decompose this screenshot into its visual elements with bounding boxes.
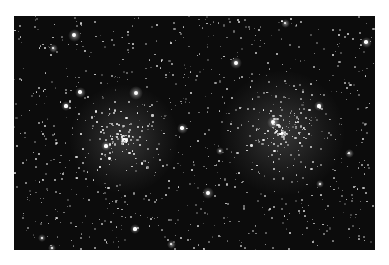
faint-star — [156, 24, 158, 26]
faint-star — [359, 32, 361, 34]
faint-star — [113, 31, 114, 32]
faint-star — [356, 130, 357, 131]
faint-star — [171, 109, 172, 110]
faint-star — [16, 186, 18, 188]
cluster-star — [146, 166, 148, 168]
faint-star — [90, 52, 92, 54]
faint-star — [318, 29, 319, 30]
faint-star — [203, 69, 204, 70]
faint-star — [53, 159, 55, 161]
faint-star — [206, 23, 208, 25]
faint-star — [153, 129, 154, 130]
cluster-star — [299, 142, 301, 144]
faint-star — [30, 194, 31, 195]
faint-star — [76, 194, 77, 195]
faint-star — [290, 68, 291, 69]
faint-star — [271, 35, 272, 36]
cluster-star — [156, 148, 158, 150]
faint-star — [149, 225, 151, 227]
faint-star — [135, 213, 136, 214]
faint-star — [168, 219, 170, 221]
faint-star — [243, 207, 245, 209]
faint-star — [107, 208, 108, 209]
faint-star — [286, 228, 288, 230]
faint-star — [69, 160, 70, 161]
faint-star — [372, 28, 374, 30]
faint-star — [51, 81, 53, 83]
faint-star — [295, 200, 297, 202]
cluster-star — [139, 136, 141, 138]
faint-star — [207, 44, 208, 45]
faint-star — [212, 236, 214, 238]
faint-star — [360, 209, 361, 210]
cluster-star — [276, 86, 277, 87]
faint-star — [259, 46, 261, 48]
faint-star — [365, 192, 367, 194]
cluster-star — [139, 144, 140, 145]
faint-star — [170, 42, 172, 44]
faint-star — [110, 221, 112, 223]
cluster-star — [303, 108, 305, 110]
faint-star — [366, 68, 368, 70]
cluster-star — [296, 116, 298, 118]
faint-star — [349, 237, 350, 238]
faint-star — [295, 59, 296, 60]
faint-star — [358, 71, 360, 73]
faint-star — [187, 239, 188, 240]
faint-star — [338, 34, 340, 36]
faint-star — [220, 236, 221, 237]
faint-star — [243, 205, 245, 207]
faint-star — [145, 78, 146, 79]
faint-star — [203, 201, 205, 203]
faint-star — [154, 54, 155, 55]
faint-star — [121, 229, 122, 230]
faint-star — [105, 187, 106, 188]
faint-star — [133, 192, 135, 194]
faint-star — [316, 119, 318, 121]
faint-star — [70, 222, 72, 224]
faint-star — [83, 198, 84, 199]
faint-star — [311, 94, 313, 96]
faint-star — [154, 175, 155, 176]
faint-star — [326, 230, 328, 232]
faint-star — [36, 91, 38, 93]
faint-star — [245, 26, 247, 28]
faint-star — [284, 215, 286, 217]
faint-star — [346, 87, 348, 89]
faint-star — [333, 177, 335, 179]
faint-star — [23, 68, 24, 69]
faint-star — [341, 195, 343, 197]
faint-star — [75, 77, 76, 78]
faint-star — [20, 36, 22, 38]
faint-star — [180, 237, 182, 239]
faint-star — [241, 48, 243, 50]
faint-star — [131, 71, 133, 73]
faint-star — [29, 110, 30, 111]
faint-star — [21, 115, 22, 116]
cluster-star — [114, 143, 117, 146]
faint-star — [135, 170, 136, 171]
cluster-star — [118, 134, 119, 135]
faint-star — [341, 162, 342, 163]
faint-star — [304, 129, 305, 130]
faint-star — [199, 53, 201, 55]
faint-star — [363, 51, 365, 53]
faint-star — [239, 240, 240, 241]
faint-star — [150, 218, 152, 220]
faint-star — [94, 21, 96, 23]
faint-star — [370, 241, 372, 243]
faint-star — [45, 173, 47, 175]
faint-star — [82, 222, 83, 223]
faint-star — [67, 206, 68, 207]
faint-star — [224, 178, 226, 180]
faint-star — [46, 96, 47, 97]
faint-star — [197, 225, 199, 227]
faint-star — [118, 241, 120, 243]
faint-star — [185, 85, 186, 86]
faint-star — [147, 125, 149, 127]
faint-star — [154, 201, 156, 203]
faint-star — [107, 187, 109, 189]
faint-star — [189, 183, 191, 185]
faint-star — [334, 170, 335, 171]
faint-star — [358, 238, 360, 240]
